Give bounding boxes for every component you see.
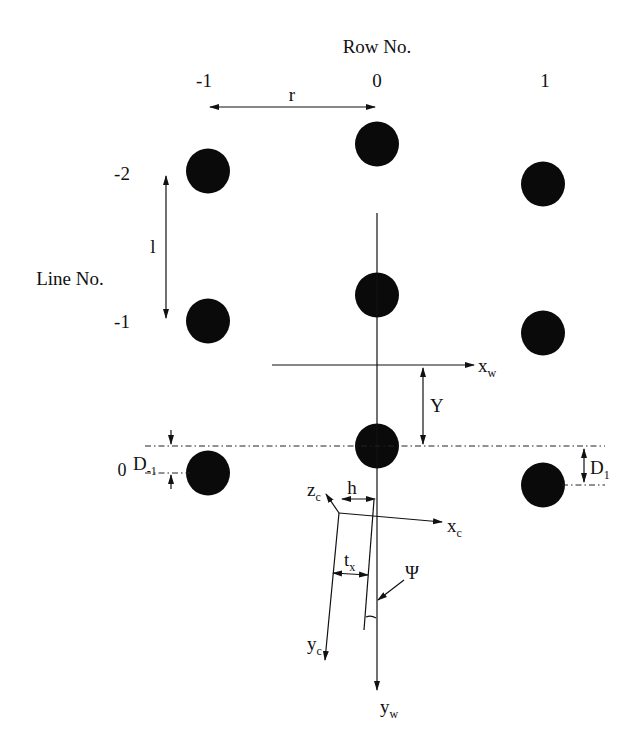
- plant-dot-row1-line0: [521, 463, 565, 508]
- camera-y-axis: [325, 513, 339, 660]
- camera-y-axis-label: yc: [307, 633, 322, 658]
- camera-z-axis: [326, 494, 339, 513]
- plant-dot-row1-line-2: [521, 162, 565, 207]
- row-axis-title: Row No.: [343, 36, 412, 57]
- row-spacing-label: r: [289, 84, 296, 105]
- plant-dot-row0-line-2: [355, 122, 399, 167]
- d-right-label: D1: [590, 457, 610, 482]
- plant-dot-row-1-line-1: [186, 299, 230, 344]
- translation-label: tx: [344, 549, 355, 574]
- camera-x-axis-label: xc: [447, 515, 462, 540]
- offset-y-label: Y: [430, 395, 444, 416]
- line-label-0: 0: [118, 460, 127, 480]
- row-label-0: 0: [372, 70, 382, 91]
- plant-dot-row1-line-1: [521, 311, 565, 356]
- plant-dot-row-1-line0: [186, 451, 230, 496]
- camera-heading-line: [364, 500, 374, 630]
- world-x-axis-label: xw: [478, 355, 497, 380]
- yaw-angle-label: Ψ: [405, 562, 419, 583]
- line-label-minus-2: -2: [114, 163, 130, 184]
- camera-x-axis: [339, 513, 442, 522]
- offset-h-label: h: [347, 477, 357, 498]
- line-spacing-label: l: [150, 236, 155, 257]
- row-label-1: 1: [540, 70, 550, 91]
- yaw-angle-pointer: [378, 580, 404, 600]
- line-axis-title: Line No.: [36, 268, 104, 289]
- camera-z-axis-label: zc: [307, 479, 321, 504]
- world-y-axis-label: yw: [380, 696, 399, 721]
- plant-dots: [186, 122, 565, 508]
- crop-row-geometry-diagram: Row No. -1 0 1 r -2 -1 0 Line No. l xw y…: [0, 0, 643, 739]
- row-label-minus-1: -1: [196, 70, 212, 91]
- line-label-minus-1: -1: [114, 311, 130, 332]
- plant-dot-row-1-line-2: [186, 149, 230, 194]
- d-left-label: D-1: [133, 453, 157, 478]
- yaw-angle-arc: [366, 616, 376, 618]
